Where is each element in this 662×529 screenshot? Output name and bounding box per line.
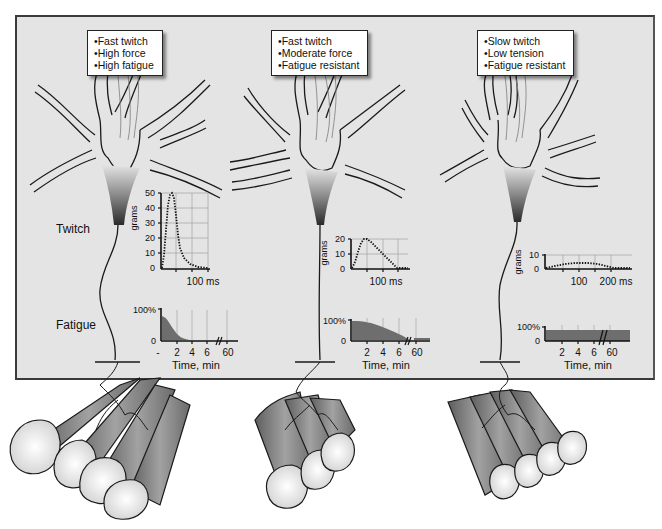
fatigue-chart-2: 100% 0 2 4 6 60 Time, min xyxy=(323,316,430,371)
y-tick: 100% xyxy=(517,322,540,332)
row-label-twitch: Twitch xyxy=(56,222,90,236)
y-tick: 100% xyxy=(323,316,346,326)
property-item: Fast twitch xyxy=(94,35,154,47)
y-tick: 20 xyxy=(335,234,345,244)
y-tick: 0 xyxy=(534,264,539,274)
properties-box-1: Fast twitch High force High fatigue xyxy=(87,30,163,76)
property-item: High force xyxy=(94,47,154,59)
x-tick: 60 xyxy=(222,347,234,358)
fatigue-chart-3: 100% 0 2 4 6 60 Time, min xyxy=(517,322,630,371)
y-tick: 30 xyxy=(145,218,155,228)
y-tick: 10 xyxy=(529,250,539,260)
x-tick: 200 ms xyxy=(600,276,633,287)
property-item: Fatigue resistant xyxy=(278,59,359,71)
fatigue-chart-1: 100% 0 - 2 4 6 60 Time, min xyxy=(133,305,238,371)
x-tick: 2 xyxy=(559,347,565,358)
y-tick: 10 xyxy=(145,248,155,258)
muscle-fibers-1 xyxy=(10,362,190,519)
property-item: Moderate force xyxy=(278,47,359,59)
y-tick: 50 xyxy=(145,188,155,198)
y-tick: 10 xyxy=(335,249,345,259)
muscle-fibers-3 xyxy=(448,362,587,499)
x-tick: 100 ms xyxy=(370,276,403,287)
property-item: Fast twitch xyxy=(278,35,359,47)
y-tick: 100% xyxy=(133,305,156,315)
x-tick: 6 xyxy=(204,347,210,358)
twitch-chart-3: 10 0 grams 100 200 ms xyxy=(513,249,632,287)
x-tick: 2 xyxy=(174,347,180,358)
y-tick: 0 xyxy=(341,336,346,346)
x-tick: 60 xyxy=(606,347,618,358)
x-tick: 6 xyxy=(591,347,597,358)
x-tick: 100 xyxy=(571,276,588,287)
x-tick: 4 xyxy=(575,347,581,358)
properties-box-3: Slow twitch Low tension Fatigue resistan… xyxy=(477,30,574,76)
y-tick: 0 xyxy=(151,336,156,346)
y-axis-label: grams xyxy=(513,249,523,275)
x-tick: - xyxy=(156,347,159,358)
y-tick: 20 xyxy=(145,233,155,243)
motor-units-illustration: 50 40 30 20 10 0 grams 100 ms 100% 0 - 2… xyxy=(0,0,662,529)
x-tick: 6 xyxy=(396,347,402,358)
x-axis-label: Time, min xyxy=(172,359,220,371)
property-item: Fatigue resistant xyxy=(484,59,565,71)
motor-neuron-2 xyxy=(230,70,405,362)
y-axis-label: grams xyxy=(319,240,329,266)
x-tick: 4 xyxy=(380,347,386,358)
y-axis-label: grams xyxy=(129,205,139,231)
y-tick: 0 xyxy=(150,263,155,273)
property-item: Slow twitch xyxy=(484,35,565,47)
x-tick: 2 xyxy=(364,347,370,358)
x-tick: 4 xyxy=(189,347,195,358)
twitch-chart-2: 20 10 0 grams 100 ms xyxy=(319,234,410,287)
twitch-chart-1: 50 40 30 20 10 0 grams 100 ms xyxy=(129,188,219,287)
y-tick: 0 xyxy=(535,336,540,346)
row-label-fatigue: Fatigue xyxy=(56,318,96,332)
property-item: Low tension xyxy=(484,47,565,59)
properties-box-2: Fast twitch Moderate force Fatigue resis… xyxy=(271,30,368,76)
property-item: High fatigue xyxy=(94,59,154,71)
x-axis-label: Time, min xyxy=(362,359,410,371)
y-tick: 40 xyxy=(145,203,155,213)
muscle-fibers-2 xyxy=(255,362,355,508)
x-tick: 100 ms xyxy=(187,276,220,287)
x-tick: 60 xyxy=(411,347,423,358)
motor-neuron-3 xyxy=(440,74,600,362)
x-axis-label: Time, min xyxy=(564,359,612,371)
y-tick: 0 xyxy=(340,264,345,274)
